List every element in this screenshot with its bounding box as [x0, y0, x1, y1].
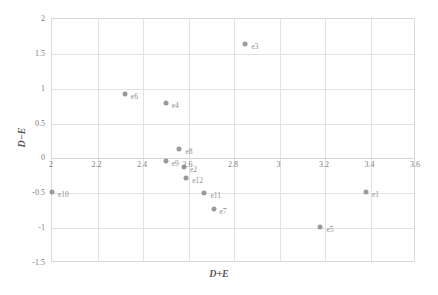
data-point-label: e5	[326, 224, 333, 233]
y-axis-tick-label: 0.5	[19, 118, 45, 127]
data-point-label: e9	[172, 158, 179, 167]
gridline-horizontal	[52, 54, 414, 55]
y-axis-tick-label: 1.5	[19, 48, 45, 57]
data-point[interactable]	[163, 158, 168, 163]
x-axis-tick-label: 2.4	[137, 160, 147, 169]
data-point-label: e10	[58, 189, 69, 198]
gridline-horizontal	[52, 193, 414, 194]
data-point[interactable]	[163, 100, 168, 105]
x-axis-tick-label: 3.6	[410, 160, 420, 169]
y-axis-tick-label: 2	[19, 14, 45, 23]
gridline-horizontal	[52, 124, 414, 125]
gridline-horizontal	[52, 89, 414, 90]
x-axis-tick-label: 2	[49, 160, 53, 169]
data-point[interactable]	[202, 191, 207, 196]
data-point[interactable]	[211, 206, 216, 211]
scatter-chart: e1e2e3e4e5e6e7e8e9e10e11e12 D−E D+E 22.2…	[0, 0, 438, 295]
data-point-label: e1	[372, 189, 379, 198]
data-point[interactable]	[184, 175, 189, 180]
y-axis-tick-label: -1	[19, 223, 45, 232]
gridline-vertical	[189, 19, 190, 261]
axis-zero-line	[52, 158, 414, 159]
x-axis-tick-label: 2.6	[183, 160, 193, 169]
x-axis-tick-label: 3.2	[319, 160, 329, 169]
data-point-label: e3	[251, 42, 258, 51]
x-axis-tick-label: 3.4	[365, 160, 375, 169]
data-point[interactable]	[243, 42, 248, 47]
data-point[interactable]	[363, 189, 368, 194]
y-axis-label: D−E	[16, 128, 27, 148]
y-axis-tick-label: 1	[19, 83, 45, 92]
data-point-label: e6	[131, 92, 138, 101]
data-point-label: e11	[210, 191, 221, 200]
y-axis-tick-label: -1.5	[19, 258, 45, 267]
y-axis-tick-label: -0.5	[19, 188, 45, 197]
data-point[interactable]	[177, 147, 182, 152]
data-point-label: e4	[172, 100, 179, 109]
x-axis-label: D+E	[0, 268, 438, 279]
data-point-label: e8	[185, 147, 192, 156]
x-axis-tick-label: 2.8	[228, 160, 238, 169]
gridline-vertical	[371, 19, 372, 261]
data-point-label: e7	[220, 206, 227, 215]
data-point[interactable]	[122, 92, 127, 97]
y-axis-tick-label: 0	[19, 153, 45, 162]
x-axis-tick-label: 3	[277, 160, 281, 169]
data-point-label: e12	[192, 175, 203, 184]
x-axis-tick-label: 2.2	[92, 160, 102, 169]
data-point[interactable]	[50, 189, 55, 194]
plot-area: e1e2e3e4e5e6e7e8e9e10e11e12	[51, 18, 415, 262]
gridline-vertical	[98, 19, 99, 261]
gridline-horizontal	[52, 228, 414, 229]
gridline-vertical	[234, 19, 235, 261]
gridline-vertical	[280, 19, 281, 261]
gridline-vertical	[143, 19, 144, 261]
data-point[interactable]	[318, 224, 323, 229]
